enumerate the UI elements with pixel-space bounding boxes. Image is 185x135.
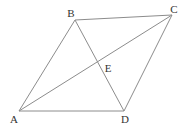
- vertex-label-E: E: [105, 62, 112, 74]
- geometry-diagram: ABCDE: [0, 0, 185, 135]
- edge-AB: [19, 20, 75, 111]
- vertex-label-B: B: [67, 7, 74, 19]
- edge-BD: [75, 20, 124, 111]
- edge-BC: [75, 15, 172, 20]
- vertex-label-C: C: [170, 3, 177, 15]
- edge-AC: [19, 15, 172, 111]
- vertex-label-A: A: [10, 113, 18, 125]
- vertex-label-D: D: [121, 113, 129, 125]
- edge-CD: [124, 15, 172, 111]
- diagram-svg: ABCDE: [0, 0, 185, 135]
